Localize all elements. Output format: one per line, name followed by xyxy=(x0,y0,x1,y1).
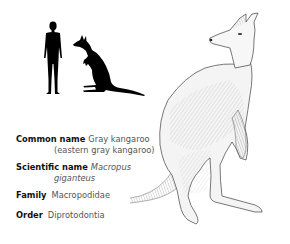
common-name-value: Gray kangaroo xyxy=(88,134,149,144)
eye xyxy=(238,33,242,35)
scientific-name-species: giganteus xyxy=(16,173,166,184)
scientific-name-genus: Macropus xyxy=(91,162,131,172)
fact-common-name: Common nameGray kangaroo (eastern gray k… xyxy=(16,134,166,156)
common-name-alt: (eastern gray kangaroo) xyxy=(16,145,166,156)
nose xyxy=(210,39,213,42)
fact-family: FamilyMacropodidae xyxy=(16,190,166,201)
fact-scientific-name: Scientific nameMacropus giganteus xyxy=(16,162,166,184)
common-name-label: Common name xyxy=(16,134,85,144)
human-silhouette-icon xyxy=(44,22,62,94)
fact-order: OrderDiprotodontia xyxy=(16,210,166,221)
species-facts: Common nameGray kangaroo (eastern gray k… xyxy=(16,134,166,230)
order-value: Diprotodontia xyxy=(48,210,105,220)
family-value: Macropodidae xyxy=(52,190,110,200)
order-label: Order xyxy=(16,210,43,220)
family-label: Family xyxy=(16,190,47,200)
scientific-name-label: Scientific name xyxy=(16,162,88,172)
